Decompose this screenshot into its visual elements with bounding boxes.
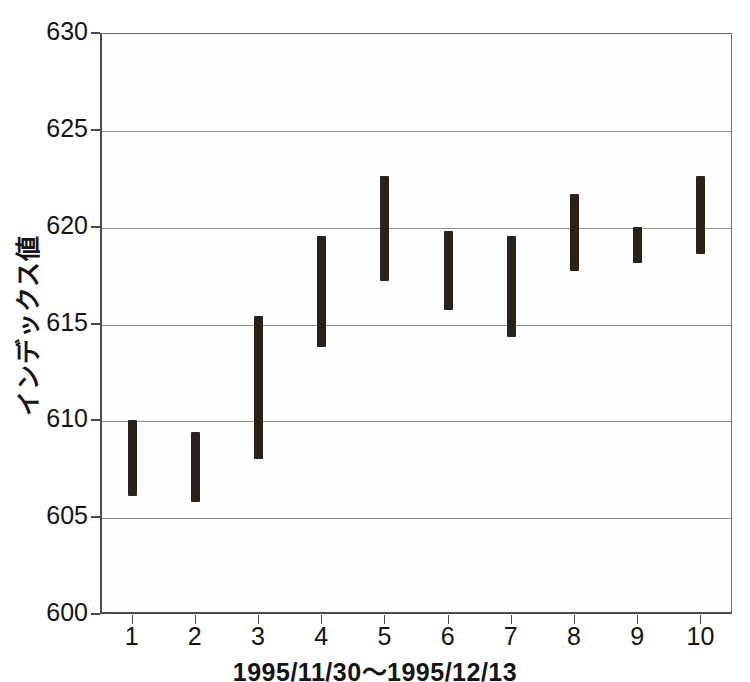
y-tick-mark	[91, 516, 100, 518]
x-tick-label: 5	[354, 622, 414, 651]
range-bar	[128, 420, 137, 496]
y-tick-mark	[91, 613, 100, 615]
y-tick-label: 600	[0, 598, 88, 627]
y-tick-label: 605	[0, 501, 88, 530]
x-tick-label: 8	[544, 622, 604, 651]
range-bar	[444, 231, 453, 310]
range-bar	[191, 432, 200, 502]
x-tick-label: 9	[607, 622, 667, 651]
gridline	[102, 325, 731, 326]
y-tick-mark	[91, 323, 100, 325]
x-tick-label: 7	[481, 622, 541, 651]
y-tick-label: 620	[0, 211, 88, 240]
y-tick-label: 610	[0, 404, 88, 433]
range-bar	[380, 176, 389, 281]
x-tick-label: 6	[418, 622, 478, 651]
y-tick-label: 625	[0, 114, 88, 143]
y-tick-label: 630	[0, 17, 88, 46]
x-tick-label: 4	[291, 622, 351, 651]
range-bar	[633, 227, 642, 264]
gridline	[102, 421, 731, 422]
y-tick-mark	[91, 226, 100, 228]
chart-figure: インデックス値 600605610615620625630 1234567891…	[0, 0, 750, 682]
gridline	[102, 131, 731, 132]
x-tick-label: 2	[165, 622, 225, 651]
range-bar	[254, 316, 263, 459]
y-tick-mark	[91, 32, 100, 34]
range-bar	[507, 236, 516, 337]
range-bar	[696, 176, 705, 253]
gridline	[102, 518, 731, 519]
y-tick-label: 615	[0, 308, 88, 337]
x-tick-label: 1	[102, 622, 162, 651]
range-bar	[317, 236, 326, 346]
x-tick-label: 3	[228, 622, 288, 651]
range-bar	[570, 194, 579, 271]
y-tick-mark	[91, 419, 100, 421]
y-tick-mark	[91, 129, 100, 131]
plot-area	[100, 33, 732, 614]
x-axis-title: 1995/11/30～1995/12/13	[0, 652, 750, 682]
x-tick-label: 10	[670, 622, 730, 651]
